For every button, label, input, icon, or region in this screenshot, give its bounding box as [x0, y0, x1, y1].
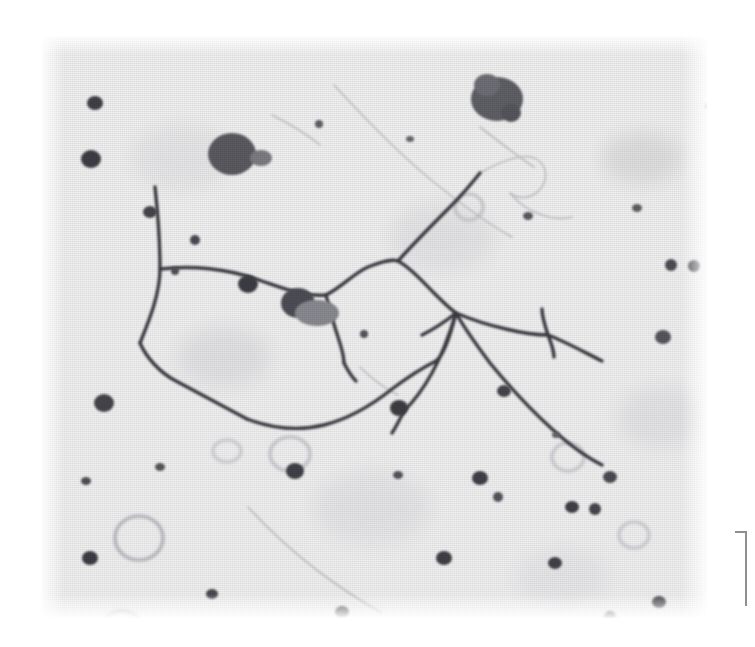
granule	[206, 589, 218, 599]
granule	[82, 551, 98, 565]
granule	[655, 330, 671, 344]
granule	[632, 204, 642, 212]
granule	[393, 471, 403, 479]
granule	[94, 394, 114, 412]
panel-border-rule	[734, 531, 747, 606]
granule	[472, 471, 488, 485]
granule	[143, 206, 157, 218]
granule	[406, 136, 414, 142]
granule	[190, 235, 200, 245]
granule	[250, 150, 272, 166]
figure-root	[0, 0, 755, 647]
granule	[589, 503, 601, 515]
granule	[436, 551, 452, 565]
panel-rule-top-cap	[735, 531, 747, 533]
granule	[552, 432, 560, 438]
granule	[390, 400, 408, 416]
granule	[315, 120, 323, 128]
granule	[208, 133, 256, 175]
tissue-smudge	[516, 549, 608, 605]
granule	[171, 267, 179, 275]
granule	[238, 275, 258, 293]
tissue-smudge	[602, 132, 682, 184]
granule	[548, 557, 562, 569]
granule	[688, 260, 700, 272]
granule	[474, 74, 500, 96]
photomicrograph-image	[42, 37, 707, 618]
granule	[603, 471, 617, 483]
granule	[497, 385, 511, 397]
granule	[493, 492, 503, 502]
granule	[501, 104, 521, 122]
tissue-smudge	[314, 471, 430, 543]
granule	[565, 501, 579, 513]
granule	[81, 477, 91, 485]
granule	[523, 212, 533, 220]
granule	[87, 96, 103, 110]
granule	[335, 606, 349, 618]
granule	[295, 300, 339, 326]
granule	[81, 150, 101, 168]
micrograph-canvas	[42, 37, 707, 618]
tissue-smudge	[618, 387, 706, 447]
granule	[155, 463, 165, 471]
granule	[665, 259, 677, 271]
tissue-smudge	[178, 327, 270, 387]
granule	[360, 330, 368, 338]
panel-rule-vertical-line	[745, 531, 747, 606]
granule	[286, 463, 304, 479]
granule	[652, 596, 666, 608]
